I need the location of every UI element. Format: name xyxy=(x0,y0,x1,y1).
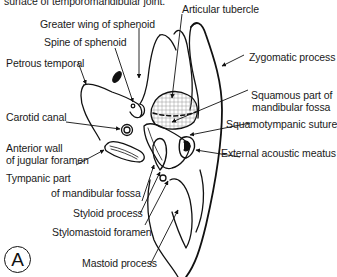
label-tympanic-part-line2: of mandibular fossa xyxy=(51,188,141,200)
label-mastoid-process: Mastoid process xyxy=(82,258,157,270)
label-squamous-part-line1: Squamous part of xyxy=(251,90,332,102)
label-squamous-part-line2: mandibular fossa xyxy=(252,102,330,114)
caption-fragment: surface of temporomandibular joint. xyxy=(4,0,165,8)
label-anterior-wall-line2: of jugular foramen xyxy=(6,155,89,167)
label-styloid-process: Styloid process xyxy=(73,208,143,220)
label-tympanic-part-line1: Tympanic part xyxy=(6,173,71,185)
label-external-acoustic-meatus: External acoustic meatus xyxy=(221,148,336,160)
label-squamotympanic-suture: Squamotympanic suture xyxy=(226,119,337,131)
label-spine-of-sphenoid: Spine of sphenoid xyxy=(44,37,126,49)
label-zygomatic-process: Zygomatic process xyxy=(249,52,335,64)
label-articular-tubercle: Articular tubercle xyxy=(182,4,259,16)
label-stylomastoid-foramen: Stylomastoid foramen xyxy=(52,227,152,239)
panel-letter-badge: A xyxy=(4,246,31,273)
label-carotid-canal: Carotid canal xyxy=(6,112,67,124)
label-petrous-temporal: Petrous temporal xyxy=(6,58,84,70)
label-anterior-wall-line1: Anterior wall xyxy=(6,143,62,155)
label-greater-wing-of-sphenoid: Greater wing of sphenoid xyxy=(40,19,155,31)
